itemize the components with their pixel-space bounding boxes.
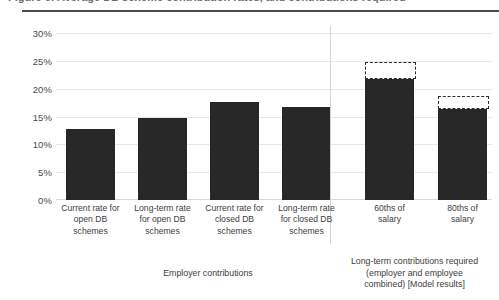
x-label-line: closed DB [215,214,254,224]
x-label-line: Current rate for [61,203,119,213]
bar-long-term-rate-closed-db [282,107,331,201]
x-label-line: open DB [74,214,107,224]
group-caption-line: (employer and employee [366,268,463,278]
y-tick-15: 15% [8,111,52,122]
x-label-line: Long-term rate [134,203,190,213]
gridline-15 [56,117,492,118]
chart-container: Figure 6: Average DB scheme contribution… [0,0,499,300]
y-tick-5: 5% [8,167,52,178]
x-label-long-term-rate-closed-db: Long-term rate for closed DB schemes [267,203,346,237]
y-tick-20: 20% [8,83,52,94]
y-tick-10: 10% [8,139,52,150]
bar-current-rate-open-db [66,129,115,200]
x-label-line: schemes [73,226,107,236]
bar-long-term-rate-open-db [138,118,187,200]
x-axis-labels: Current rate for open DB schemes Long-te… [56,203,492,253]
gridline-25 [56,61,492,62]
x-label-60ths-of-salary: 60ths of salary [350,203,429,226]
y-tick-30: 30% [8,28,52,39]
x-label-line: salary [451,214,474,224]
y-tick-0: 0% [8,195,52,206]
bar-current-rate-closed-db [210,102,259,201]
x-label-80ths-of-salary: 80ths of salary [423,203,499,226]
gridline-5 [56,172,492,173]
x-label-line: Current rate for [205,203,263,213]
group-caption-line: Employer contributions [163,268,252,278]
x-label-current-rate-closed-db: Current rate for closed DB schemes [195,203,274,237]
x-label-line: Long-term rate [278,203,334,213]
group-caption-line: combined) [Model results] [364,279,465,289]
group-caption-line: Long-term contributions required [351,256,478,266]
plot-area [56,33,492,200]
x-label-line: schemes [217,226,251,236]
x-label-line: schemes [289,226,323,236]
x-label-line: salary [378,214,401,224]
x-label-long-term-rate-open-db: Long-term rate for open DB schemes [123,203,202,237]
group-caption-employer-contributions: Employer contributions [118,268,298,280]
x-label-line: 80ths of [447,203,478,213]
gridline-10 [56,144,492,145]
gridline-30 [56,33,492,34]
gridline-20 [56,89,492,90]
gridline-0 [56,199,492,200]
y-axis: 30% 25% 20% 15% 10% 5% 0% [0,33,52,200]
bar-80ths-of-salary [438,109,487,200]
title-divider [22,10,499,12]
x-label-line: 60ths of [374,203,405,213]
figure-title: Figure 6: Average DB scheme contribution… [8,0,406,3]
group-caption-long-term-contributions: Long-term contributions required (employ… [330,256,499,291]
x-label-line: for closed DB [281,214,333,224]
x-label-current-rate-open-db: Current rate for open DB schemes [51,203,130,237]
x-label-line: schemes [145,226,179,236]
figure-title-strip: Figure 6: Average DB scheme contribution… [0,0,499,9]
x-label-line: for open DB [140,214,186,224]
range-annotation-80ths [438,96,489,109]
bar-60ths-of-salary [365,79,414,200]
y-tick-25: 25% [8,55,52,66]
range-annotation-60ths [365,62,416,79]
